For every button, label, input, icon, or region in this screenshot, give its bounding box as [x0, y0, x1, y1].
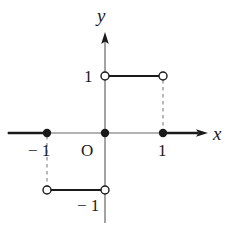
- coordinate-plot: [0, 0, 230, 225]
- closed-point-neg-one-zero: [43, 129, 51, 137]
- closed-point-one-zero: [159, 129, 167, 137]
- tick-label-x-one: 1: [158, 142, 167, 159]
- x-axis-label: x: [213, 124, 221, 143]
- axes-group: [7, 32, 208, 223]
- tick-label-x-negative-one: − 1: [28, 142, 50, 159]
- open-point-zero-one: [101, 72, 109, 80]
- y-axis-label: y: [97, 6, 105, 25]
- open-point-zero-neg-one: [101, 186, 109, 194]
- open-point-neg-one-neg-one: [43, 186, 51, 194]
- graph-figure: y x 1 − 1 O 1 − 1: [0, 0, 230, 225]
- tick-label-y-one: 1: [84, 68, 93, 85]
- tick-label-y-negative-one: − 1: [77, 197, 99, 214]
- open-point-one-one: [159, 72, 167, 80]
- origin-label: O: [81, 142, 93, 159]
- closed-point-origin: [101, 129, 109, 137]
